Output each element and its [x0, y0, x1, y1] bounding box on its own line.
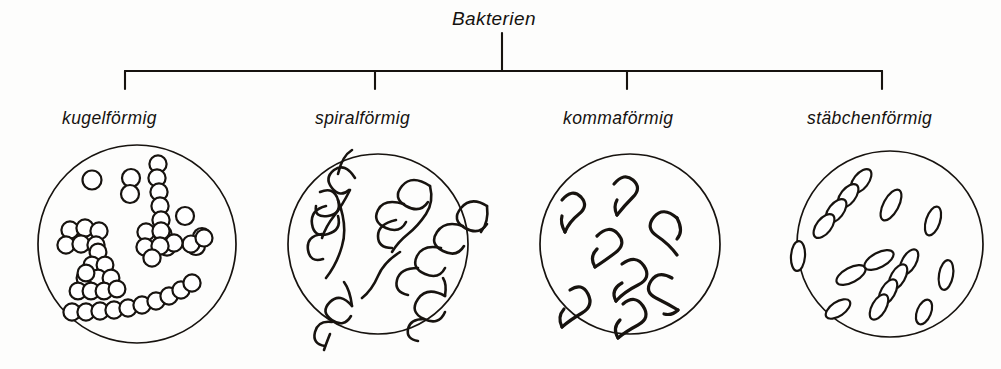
dish-kugelformig [38, 145, 236, 343]
dish-stabchenformig [790, 151, 983, 337]
figure-drawing [0, 0, 1001, 369]
bacteria-morphology-figure: Bakterien kugelförmig spiralförmig komma… [0, 0, 1001, 369]
dish-spiralformig [288, 150, 487, 350]
branch-connector [125, 33, 882, 89]
dish-kommaformig [540, 154, 720, 338]
